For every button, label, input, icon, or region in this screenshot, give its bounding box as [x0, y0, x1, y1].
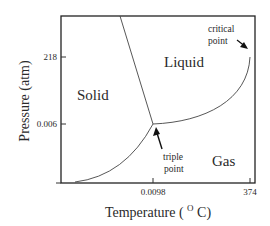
melting-curve — [120, 16, 153, 124]
triple-point-label-1: triple — [163, 152, 183, 162]
ytick-0006: 0.006 — [37, 119, 58, 129]
region-solid: Solid — [77, 87, 109, 103]
x-axis-label-suffix: C) — [194, 205, 212, 221]
critical-point-arrow-icon — [237, 40, 248, 49]
ytick-218: 218 — [44, 52, 58, 62]
region-liquid: Liquid — [164, 54, 204, 70]
xtick-374: 374 — [243, 187, 257, 197]
triple-point-label-2: point — [164, 164, 184, 174]
x-axis-label-prefix: Temperature ( — [105, 205, 187, 221]
x-axis-label: Temperature ( O C) — [105, 203, 212, 221]
xtick-00098: 0.0098 — [141, 187, 166, 197]
phase-diagram: 218 0.006 0.0098 374 Solid Liquid Gas cr… — [0, 0, 270, 226]
critical-point-label-2: point — [208, 36, 228, 46]
critical-point-label-1: critical — [208, 24, 235, 34]
region-gas: Gas — [212, 153, 235, 169]
triple-point-arrow-icon — [153, 127, 162, 149]
y-axis-label: Pressure (atm) — [17, 60, 33, 142]
sublimation-curve — [75, 124, 153, 182]
